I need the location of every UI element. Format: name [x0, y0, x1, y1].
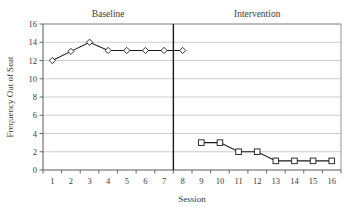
data-point-intervention-session-11	[236, 149, 242, 155]
phase-label-intervention: Intervention	[234, 9, 281, 19]
y-tick-label-2: 2	[33, 147, 37, 157]
x-tick-label-10: 10	[216, 176, 225, 186]
x-tick-label-6: 6	[143, 176, 147, 186]
data-point-intervention-session-10	[217, 140, 223, 146]
y-tick-label-8: 8	[33, 92, 37, 102]
data-point-intervention-session-16	[329, 158, 335, 164]
y-tick-label-16: 16	[29, 19, 38, 29]
x-tick-label-7: 7	[162, 176, 166, 186]
single-case-line-chart: 0246810121416 12345678910111213141516 Ba…	[0, 0, 355, 213]
y-tick-label-6: 6	[33, 110, 37, 120]
x-tick-label-15: 15	[309, 176, 318, 186]
y-tick-label-14: 14	[29, 37, 38, 47]
chart-container: 0246810121416 12345678910111213141516 Ba…	[0, 0, 355, 213]
data-point-intervention-session-15	[310, 158, 316, 164]
x-tick-label-5: 5	[125, 176, 129, 186]
y-tick-label-12: 12	[29, 56, 38, 66]
x-tick-label-11: 11	[234, 176, 242, 186]
x-tick-label-12: 12	[253, 176, 262, 186]
data-point-intervention-session-14	[292, 158, 298, 164]
x-tick-label-1: 1	[50, 176, 54, 186]
y-tick-label-0: 0	[33, 165, 37, 175]
data-point-intervention-session-12	[254, 149, 260, 155]
x-tick-label-13: 13	[272, 176, 281, 186]
y-axis-title: Frequency Out of Seat	[5, 56, 15, 138]
phase-label-baseline: Baseline	[92, 9, 125, 19]
x-tick-label-8: 8	[181, 176, 185, 186]
y-tick-label-10: 10	[29, 74, 38, 84]
x-tick-label-16: 16	[327, 176, 336, 186]
x-tick-label-9: 9	[199, 176, 203, 186]
x-tick-label-2: 2	[69, 176, 73, 186]
data-point-intervention-session-9	[199, 140, 205, 146]
x-tick-label-14: 14	[290, 176, 299, 186]
data-point-intervention-session-13	[273, 158, 279, 164]
x-axis-title: Session	[178, 194, 206, 204]
x-tick-label-3: 3	[87, 176, 91, 186]
